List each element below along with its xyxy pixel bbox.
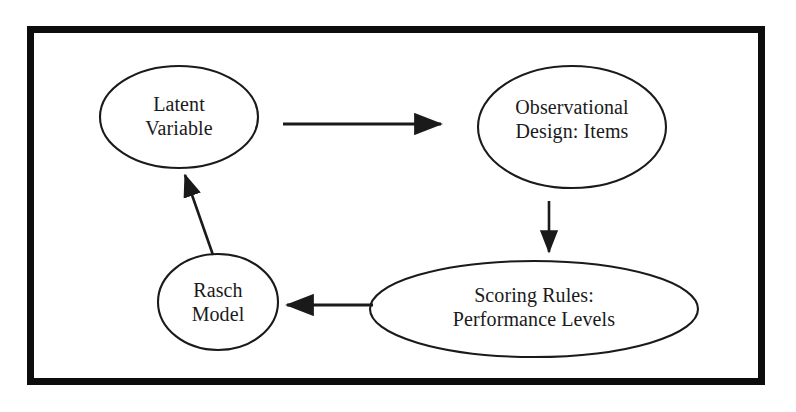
- diagram-canvas: [0, 0, 796, 412]
- node-latent-variable: [100, 66, 258, 168]
- diagram-root: Latent Variable Observational Design: It…: [0, 0, 796, 412]
- node-observational-design: [478, 66, 666, 188]
- node-scoring-rules: [370, 261, 698, 357]
- edge-rasch-to-latent-arrow: [185, 175, 213, 255]
- node-rasch-model: [158, 254, 278, 350]
